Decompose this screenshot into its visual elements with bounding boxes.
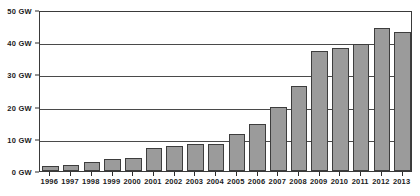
- x-tick-label: 2013: [393, 177, 411, 186]
- y-tick-label: 0 GW: [12, 168, 32, 177]
- x-tick-label: 2009: [310, 177, 328, 186]
- x-tick-label: 1996: [41, 177, 59, 186]
- x-tick-label: 2001: [144, 177, 162, 186]
- plot-area: [39, 11, 412, 172]
- y-tick-mark: [35, 11, 39, 12]
- x-tick-label: 2008: [289, 177, 307, 186]
- x-tick-mark: [339, 172, 340, 176]
- bar-2000: [125, 158, 142, 171]
- y-axis: 0 GW10 GW20 GW30 GW40 GW50 GW: [0, 0, 36, 196]
- x-tick-label: 2003: [186, 177, 204, 186]
- bar-2008: [291, 86, 308, 171]
- x-tick-label: 2002: [165, 177, 183, 186]
- bar-2010: [332, 48, 349, 171]
- y-tick-mark: [35, 43, 39, 44]
- y-tick-label: 20 GW: [7, 103, 32, 112]
- x-tick-mark: [112, 172, 113, 176]
- bar-2011: [353, 44, 370, 171]
- x-tick-label: 1999: [103, 177, 121, 186]
- x-tick-label: 2010: [331, 177, 349, 186]
- x-tick-mark: [174, 172, 175, 176]
- x-tick-mark: [298, 172, 299, 176]
- x-tick-mark: [319, 172, 320, 176]
- x-tick-mark: [70, 172, 71, 176]
- x-tick-label: 2012: [372, 177, 390, 186]
- y-tick-label: 10 GW: [7, 135, 32, 144]
- x-tick-mark: [194, 172, 195, 176]
- y-tick-mark: [35, 172, 39, 173]
- x-tick-label: 2007: [269, 177, 287, 186]
- x-tick-label: 2000: [124, 177, 142, 186]
- x-tick-label: 1998: [82, 177, 100, 186]
- x-tick-mark: [236, 172, 237, 176]
- bar-1998: [84, 162, 101, 171]
- x-tick-label: 2004: [206, 177, 224, 186]
- x-tick-mark: [277, 172, 278, 176]
- x-tick-mark: [153, 172, 154, 176]
- y-tick-mark: [35, 75, 39, 76]
- x-tick-mark: [49, 172, 50, 176]
- y-tick-mark: [35, 139, 39, 140]
- bar-2002: [166, 146, 183, 171]
- x-tick-label: 1997: [61, 177, 79, 186]
- bar-1996: [42, 166, 59, 171]
- x-tick-mark: [381, 172, 382, 176]
- x-tick-label: 2005: [227, 177, 245, 186]
- bar-1999: [104, 159, 121, 171]
- bar-2004: [208, 144, 225, 171]
- x-tick-mark: [360, 172, 361, 176]
- x-tick-label: 2011: [352, 177, 369, 186]
- bar-2006: [249, 124, 266, 171]
- x-tick-mark: [402, 172, 403, 176]
- bar-2005: [229, 134, 246, 171]
- x-tick-label: 2006: [248, 177, 266, 186]
- y-tick-mark: [35, 107, 39, 108]
- y-tick-label: 50 GW: [7, 7, 32, 16]
- y-tick-label: 30 GW: [7, 71, 32, 80]
- x-tick-mark: [132, 172, 133, 176]
- bar-2013: [394, 32, 411, 171]
- x-tick-mark: [215, 172, 216, 176]
- bar-1997: [63, 165, 80, 171]
- x-axis: 1996199719981999200020012002200320042005…: [39, 175, 412, 195]
- bar-chart: 0 GW10 GW20 GW30 GW40 GW50 GW 1996199719…: [0, 0, 420, 196]
- bar-2009: [311, 51, 328, 171]
- bar-2003: [187, 144, 204, 171]
- y-tick-label: 40 GW: [7, 39, 32, 48]
- x-tick-mark: [91, 172, 92, 176]
- bar-2001: [146, 148, 163, 171]
- x-tick-mark: [257, 172, 258, 176]
- bar-2007: [270, 107, 287, 171]
- bar-2012: [374, 28, 391, 171]
